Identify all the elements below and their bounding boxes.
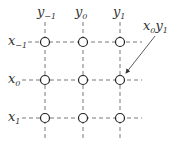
- column-label-y1: y1: [112, 4, 125, 21]
- column-label-y-minus1: y−1: [36, 4, 56, 21]
- annotation-label: x0y1: [143, 18, 168, 35]
- row-label-x1: x1: [8, 109, 20, 126]
- grid-diagram: y−1 y0 y1 x−1 x0 x1 x0y1: [0, 0, 177, 147]
- column-label-y0: y0: [74, 4, 87, 21]
- row-label-x-minus1: x−1: [8, 33, 27, 50]
- annotation-arrow: [126, 36, 155, 73]
- row-label-x0: x0: [8, 71, 20, 88]
